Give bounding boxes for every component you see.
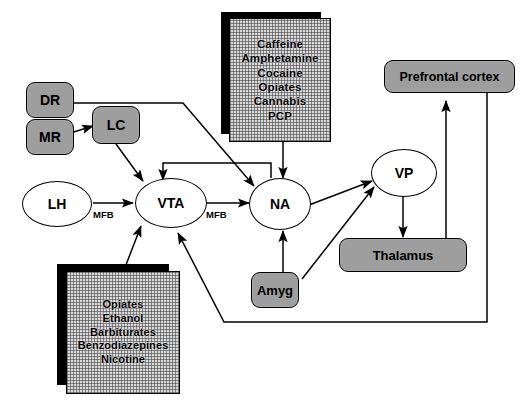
node-vp-label: VP: [395, 165, 414, 181]
node-prefrontal-cortex-label: Prefrontal cortex: [399, 70, 499, 84]
node-thalamus[interactable]: Thalamus: [339, 238, 467, 272]
node-vta[interactable]: VTA: [135, 178, 207, 228]
edge-label-lh-vta: MFB: [93, 209, 114, 220]
drug-item: Nicotine: [101, 353, 145, 367]
node-lc-label: LC: [107, 117, 126, 133]
diagram-canvas: Caffeine Amphetamine Cocaine Opiates Can…: [0, 0, 529, 414]
drug-item: Cocaine: [257, 66, 302, 80]
drug-item: Opiates: [259, 80, 302, 94]
node-amyg[interactable]: Amyg: [251, 272, 299, 308]
drug-list-top: Caffeine Amphetamine Cocaine Opiates Can…: [221, 12, 329, 140]
node-dr-label: DR: [40, 92, 60, 108]
drug-item: Opiates: [102, 298, 143, 312]
node-amyg-label: Amyg: [257, 283, 293, 298]
node-prefrontal-cortex[interactable]: Prefrontal cortex: [384, 60, 515, 93]
node-mr[interactable]: MR: [26, 119, 74, 155]
node-na[interactable]: NA: [249, 178, 311, 230]
edge-na-vta-feedback: [163, 163, 271, 180]
edge-lc-vta: [116, 144, 143, 181]
node-thalamus-label: Thalamus: [373, 248, 434, 263]
node-dr[interactable]: DR: [26, 82, 74, 118]
node-vta-label: VTA: [158, 195, 185, 211]
drug-item: Barbiturates: [90, 326, 156, 340]
drug-item: Ethanol: [102, 312, 143, 326]
drug-item: PCP: [268, 109, 292, 123]
drug-item: Amphetamine: [241, 51, 318, 65]
drug-item: Cannabis: [254, 94, 307, 108]
drug-item: Benzodiazepines: [78, 339, 169, 353]
edge-label-vta-na: MFB: [206, 209, 227, 220]
node-lh[interactable]: LH: [22, 181, 92, 227]
node-vp[interactable]: VP: [371, 149, 437, 197]
drug-item: Caffeine: [257, 37, 303, 51]
node-mr-label: MR: [39, 129, 61, 145]
drug-list-bottom: Opiates Ethanol Barbiturates Benzodiazep…: [57, 264, 178, 392]
node-lc[interactable]: LC: [92, 106, 140, 144]
node-lh-label: LH: [48, 196, 67, 212]
drug-list-bottom-panel: Opiates Ethanol Barbiturates Benzodiazep…: [66, 271, 180, 394]
node-na-label: NA: [270, 196, 290, 212]
drug-list-top-panel: Caffeine Amphetamine Cocaine Opiates Can…: [229, 18, 331, 142]
edge-na-vp: [309, 181, 372, 205]
